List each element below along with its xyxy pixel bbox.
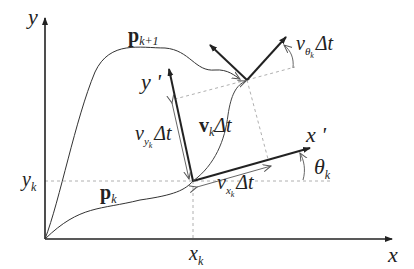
- x-k-label: xk: [188, 242, 204, 268]
- v-theta-dt-label: vθkΔt: [296, 32, 334, 60]
- y-prime-axis: [169, 69, 193, 181]
- v-theta-arc: [284, 45, 293, 68]
- x-axis-label: x: [387, 242, 398, 267]
- frame-k1-x-axis: [247, 37, 286, 80]
- theta-k-arc: [300, 153, 304, 180]
- v-yk-dt-label: vykΔt: [135, 122, 172, 150]
- v-yk-arrow: [172, 103, 189, 179]
- theta-k-label: θk: [314, 154, 331, 182]
- y-axis-label: y: [26, 4, 38, 29]
- vk-dt-label: vkΔt: [199, 114, 232, 139]
- x-prime-label: x ': [305, 122, 326, 147]
- v-xk-dt-label: vxkΔt: [217, 171, 254, 199]
- y-prime-label: y ': [139, 69, 161, 94]
- frame-k1-y-axis: [210, 45, 247, 80]
- y-k-label: yk: [20, 168, 37, 194]
- curve-p-k: [45, 181, 193, 239]
- xprime-projection: [247, 80, 268, 159]
- p-k1-label: pk+1: [128, 24, 159, 48]
- pose-update-diagram: y x yk xk pk pk+1 y ' x ' vkΔt vykΔt vxk…: [0, 0, 414, 269]
- p-k-label: pk: [100, 181, 117, 206]
